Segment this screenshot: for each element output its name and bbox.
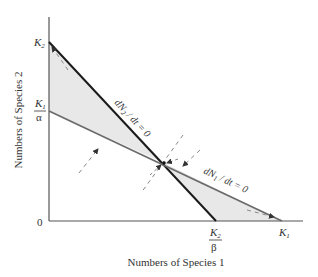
y-tick-k1-alpha-den: α <box>36 111 42 123</box>
trajectory-arrow-upper-right <box>183 150 200 166</box>
y-axis-title: Numbers of Species 2 <box>12 72 24 169</box>
x-tick-k1: K1 <box>278 226 290 240</box>
trajectory-arrow-into-equilibrium-left <box>150 165 161 175</box>
x-tick-k2-beta-den: β <box>211 241 217 253</box>
species2-isocline <box>49 42 216 221</box>
y-tick-k2: K2 <box>33 36 45 50</box>
isocline-diagram: K2 K1 α 0 K2 β K1 dN2 / dt = 0 dN1 / dt … <box>0 0 318 277</box>
trajectory-line-through-equilibrium <box>141 135 183 193</box>
trajectory-arrow-into-equilibrium-right <box>167 159 178 163</box>
x-axis-title: Numbers of Species 1 <box>128 256 225 268</box>
x-tick-k2-beta-num: K2 <box>209 226 221 240</box>
equilibrium-point <box>162 161 166 165</box>
origin-label: 0 <box>37 216 43 228</box>
y-tick-k1-alpha-num: K1 <box>34 97 46 111</box>
trajectory-arrow-lower-left <box>79 149 98 173</box>
